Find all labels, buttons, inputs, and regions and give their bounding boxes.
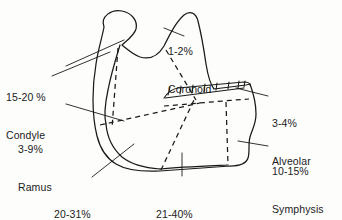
- label-ramus: 3-9% Ramus: [18, 118, 52, 218]
- leader-lines: [52, 28, 268, 177]
- label-body: 21-40% Body: [156, 183, 193, 220]
- label-symphysis-name: Symphysis: [272, 203, 324, 216]
- label-angle-percent: 20-31%: [54, 208, 91, 220]
- label-coronoid-percent: 1-2%: [168, 45, 211, 58]
- label-symphysis-percent: 10-15%: [272, 165, 324, 178]
- label-coronoid-name: Coronoid: [168, 83, 211, 96]
- label-condyle-percent: 15-20 %: [6, 91, 46, 104]
- label-angle: 20-31% Angle: [54, 183, 91, 220]
- label-symphysis: 10-15% Symphysis: [272, 140, 324, 220]
- label-ramus-percent: 3-9%: [18, 143, 52, 156]
- divider-body-symphysis: [226, 102, 228, 165]
- condylar-neck-contour: [105, 45, 120, 124]
- label-ramus-name: Ramus: [18, 181, 52, 194]
- leader-condyle-cross: [52, 52, 110, 76]
- figure-canvas: 1-2% Coronoid 15-20 % Condyle 3-4% Alveo…: [0, 0, 342, 220]
- label-coronoid: 1-2% Coronoid: [168, 20, 211, 120]
- leader-symphysis: [238, 141, 268, 146]
- leader-ramus: [66, 104, 124, 121]
- label-alveolar-percent: 3-4%: [272, 117, 311, 130]
- label-body-percent: 21-40%: [156, 208, 193, 220]
